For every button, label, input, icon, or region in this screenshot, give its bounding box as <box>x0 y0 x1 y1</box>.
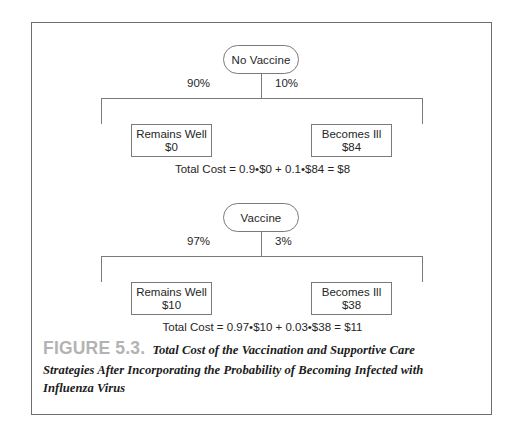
outcome-box-becomes-ill: Becomes Ill $38 <box>311 282 392 315</box>
probability-label-left: 90% <box>187 77 210 89</box>
connector-drop-right <box>422 256 423 282</box>
caption-first-line: FIGURE 5.3.Total Cost of the Vaccination… <box>43 338 483 361</box>
connector-drop-left <box>101 256 102 282</box>
decision-tree-vaccine: Vaccine 97% 3% Remains Well $10 Becomes … <box>32 181 493 341</box>
connector-drop-right <box>422 98 423 124</box>
connector-drop-left <box>101 98 102 124</box>
outcome-title: Becomes Ill <box>322 286 381 299</box>
outcome-title: Remains Well <box>136 286 207 299</box>
connector-stem <box>261 74 262 98</box>
outcome-cost: $84 <box>342 141 361 154</box>
root-node-no-vaccine: No Vaccine <box>223 45 299 74</box>
root-node-vaccine: Vaccine <box>223 203 299 232</box>
caption-title-part1: Total Cost of the Vaccination and Suppor… <box>145 343 415 357</box>
total-cost-formula: Total Cost = 0.97•$10 + 0.03•$38 = $11 <box>32 321 493 333</box>
probability-label-right: 3% <box>275 235 292 247</box>
total-cost-formula: Total Cost = 0.9•$0 + 0.1•$84 = $8 <box>32 163 493 175</box>
figure-number: FIGURE 5.3. <box>43 338 145 358</box>
probability-label-right: 10% <box>275 77 298 89</box>
connector-crossbar <box>101 98 422 99</box>
decision-tree-no-vaccine: No Vaccine 90% 10% Remains Well $0 Becom… <box>32 23 493 183</box>
figure-frame: No Vaccine 90% 10% Remains Well $0 Becom… <box>31 22 492 415</box>
outcome-title: Becomes Ill <box>322 128 381 141</box>
figure-caption: FIGURE 5.3.Total Cost of the Vaccination… <box>43 338 483 397</box>
outcome-cost: $0 <box>165 141 178 154</box>
outcome-cost: $38 <box>342 299 361 312</box>
outcome-box-becomes-ill: Becomes Ill $84 <box>311 124 392 157</box>
outcome-cost: $10 <box>162 299 181 312</box>
root-node-label: Vaccine <box>241 212 282 224</box>
root-node-label: No Vaccine <box>232 54 291 66</box>
outcome-title: Remains Well <box>136 128 207 141</box>
outcome-box-remains-well: Remains Well $0 <box>131 124 212 157</box>
outcome-box-remains-well: Remains Well $10 <box>131 282 212 315</box>
caption-title-rest: Strategies After Incorporating the Proba… <box>43 362 475 397</box>
connector-stem <box>261 232 262 256</box>
connector-crossbar <box>101 256 422 257</box>
probability-label-left: 97% <box>187 235 210 247</box>
